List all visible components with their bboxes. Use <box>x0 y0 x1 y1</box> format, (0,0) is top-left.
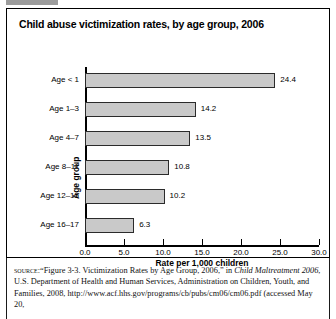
scan-artifact <box>6 0 58 5</box>
x-tick-label: 20.0 <box>233 248 249 257</box>
bar-value-label: 6.3 <box>139 220 150 229</box>
source-note: source:“Figure 3-3. Victimization Rates … <box>14 265 324 310</box>
bar-category-label: Age < 1 <box>51 75 79 84</box>
bar-row: Age 16–176.3 <box>85 218 319 247</box>
bar-row: Age 8–1110.8 <box>85 160 319 189</box>
x-tick-label: 0.0 <box>79 248 90 257</box>
bar-value-label: 10.8 <box>174 162 190 171</box>
bar-value-label: 10.2 <box>170 191 186 200</box>
x-tick-label: 10.0 <box>155 248 171 257</box>
source-quote: “Figure 3-3. Victimization Rates by Age … <box>40 266 232 275</box>
bar-value-label: 13.5 <box>195 133 211 142</box>
bar-row: Age 1–314.2 <box>85 102 319 131</box>
bar <box>85 189 165 204</box>
bar <box>85 218 134 233</box>
bar-row: Age < 124.4 <box>85 73 319 102</box>
figure-box: Child abuse victimization rates, by age … <box>6 8 330 258</box>
bar <box>85 131 190 146</box>
x-tick-label: 25.0 <box>272 248 288 257</box>
bar <box>85 73 275 88</box>
bar-value-label: 24.4 <box>280 75 296 84</box>
page-title: Child abuse victimization rates, by age … <box>19 18 264 30</box>
x-tick-label: 30.0 <box>311 248 327 257</box>
bar <box>85 102 196 117</box>
bar-category-label: Age 1–3 <box>49 104 79 113</box>
x-tick-label: 5.0 <box>118 248 129 257</box>
x-tick-label: 15.0 <box>194 248 210 257</box>
bar-category-label: Age 4–7 <box>49 133 79 142</box>
bar-row: Age 12–1510.2 <box>85 189 319 218</box>
x-tick-mark <box>319 239 320 245</box>
bar-category-label: Age 16–17 <box>40 220 79 229</box>
bar-category-label: Age 12–15 <box>40 191 79 200</box>
bar <box>85 160 169 175</box>
bar-category-label: Age 8–11 <box>45 162 79 171</box>
bar-row: Age 4–713.5 <box>85 131 319 160</box>
source-italic-title: Child Maltreatment 2006 <box>234 266 318 275</box>
source-kicker: source: <box>14 266 40 275</box>
bar-value-label: 14.2 <box>201 104 217 113</box>
